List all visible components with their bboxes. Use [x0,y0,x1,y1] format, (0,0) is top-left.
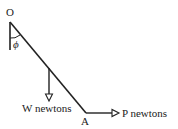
horizontal-force-label: P newtons [122,107,167,119]
weight-arrow-icon [46,94,53,101]
point-A-label: A [81,115,89,127]
point-O-label: O [6,6,14,18]
weight-label: W newtons [22,102,72,114]
rod-force-diagram: O ϕ W newtons A P newtons [0,0,178,129]
angle-phi-label: ϕ [13,38,19,50]
horizontal-arrow-icon [112,110,119,117]
